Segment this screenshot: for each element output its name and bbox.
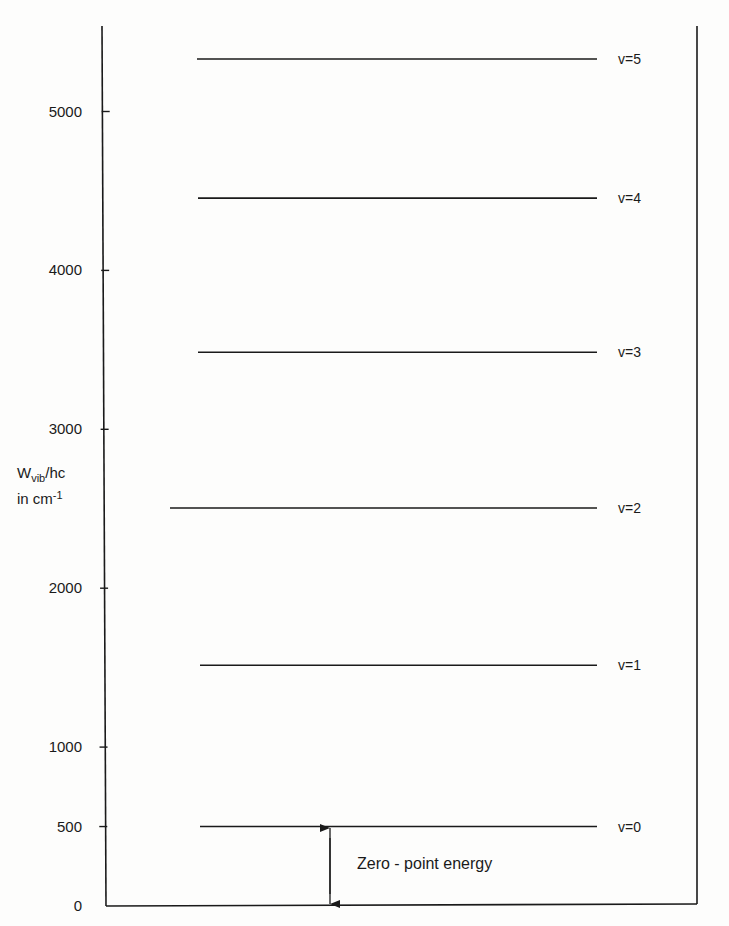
vibrational-level-label: v=2 — [618, 500, 641, 516]
y-axis-ticks: 050010002000300040005000 — [49, 103, 110, 915]
y-tick-label: 0 — [74, 897, 82, 914]
y-axis-title-line1: Wvib/hc — [17, 464, 66, 484]
x-baseline — [106, 904, 697, 906]
energy-level-diagram: 050010002000300040005000 Wvib/hc in cm-1… — [0, 0, 729, 926]
y-axis-title-line2: in cm-1 — [17, 489, 63, 507]
plot-frame — [102, 26, 697, 906]
y-tick-label: 3000 — [49, 420, 82, 437]
vibrational-level-label: v=3 — [618, 344, 641, 360]
y-tick-label: 500 — [57, 818, 82, 835]
y-tick-label: 5000 — [49, 103, 82, 120]
y-tick-label: 4000 — [49, 261, 82, 278]
y-tick-label: 1000 — [49, 738, 82, 755]
y-axis-line — [102, 26, 106, 906]
vibrational-level-label: v=0 — [618, 819, 641, 835]
y-tick-label: 2000 — [49, 579, 82, 596]
zero-point-label: Zero - point energy — [357, 855, 492, 872]
zero-point-annotation: Zero - point energy — [330, 828, 492, 904]
y-axis-title: Wvib/hc in cm-1 — [17, 464, 66, 507]
diagram-canvas: 050010002000300040005000 Wvib/hc in cm-1… — [0, 0, 729, 926]
vibrational-level-label: v=5 — [618, 51, 641, 67]
vibrational-level-label: v=1 — [618, 657, 641, 673]
vibrational-level-label: v=4 — [618, 190, 641, 206]
vibrational-levels: v=0v=1v=2v=3v=4v=5 — [170, 51, 641, 834]
